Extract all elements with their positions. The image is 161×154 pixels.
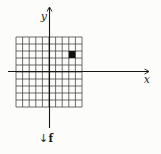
x-axis-label: x — [144, 73, 151, 86]
down-arrow-icon: ↓ — [39, 132, 48, 145]
coordinate-grid-figure: y x ↓ f — [0, 0, 161, 154]
figure-canvas: y x ↓ f — [0, 0, 161, 154]
y-axis-label: y — [40, 10, 48, 23]
map-function-label: f — [49, 132, 55, 144]
filled-cell — [69, 51, 76, 58]
y-axis — [47, 7, 52, 128]
